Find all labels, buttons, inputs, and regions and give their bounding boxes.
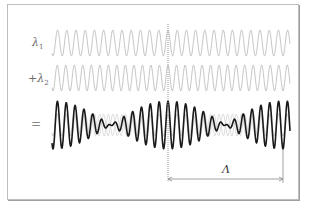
label-beat-length: Λ [222, 163, 230, 176]
wave-lambda1 [52, 30, 290, 56]
beat-diagram [0, 0, 314, 210]
label-equals: = [31, 117, 41, 131]
wave-lambda2-path [52, 65, 290, 91]
label-lambda2: +λ2 [28, 72, 49, 87]
wave-lambda2 [52, 65, 290, 91]
wave-lambda1-path [52, 30, 290, 56]
label-lambda1: λ1 [32, 36, 43, 51]
